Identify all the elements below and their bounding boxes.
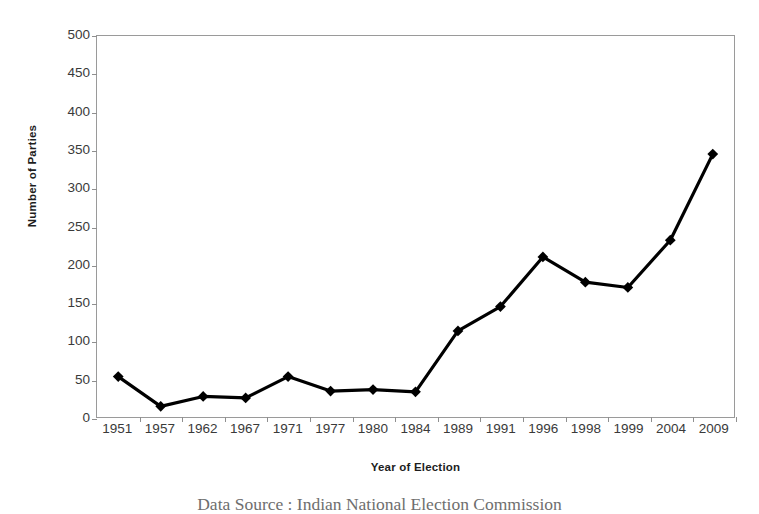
y-tick-label: 250 [46, 220, 90, 234]
y-tick-mark [92, 381, 97, 382]
x-tick-label: 2009 [684, 422, 744, 436]
data-point-marker [283, 371, 294, 382]
chart-figure: Number of Parties 0501001502002503003504… [0, 0, 759, 514]
y-tick-mark [92, 36, 97, 37]
y-tick-label: 500 [46, 28, 90, 42]
y-tick-label: 400 [46, 105, 90, 119]
data-point-marker [240, 393, 251, 404]
y-axis-tick-labels: 050100150200250300350400450500 [40, 0, 90, 514]
series-line [118, 154, 713, 406]
line-series [97, 36, 734, 417]
figure-caption-clip: Data Source : Indian National Election C… [0, 497, 759, 514]
y-axis-title: Number of Parties [26, 76, 38, 276]
plot-area [96, 35, 735, 418]
y-tick-label: 50 [46, 373, 90, 387]
y-tick-label: 300 [46, 181, 90, 195]
y-tick-label: 350 [46, 143, 90, 157]
y-tick-mark [92, 113, 97, 114]
data-point-marker [198, 391, 209, 402]
y-tick-label: 150 [46, 296, 90, 310]
y-tick-mark [92, 304, 97, 305]
y-tick-mark [92, 151, 97, 152]
data-point-marker [325, 386, 336, 397]
y-tick-label: 100 [46, 334, 90, 348]
x-axis-tick-labels: 1951195719621967197119771980198419891991… [96, 422, 735, 444]
data-point-marker [368, 384, 379, 395]
figure-caption: Data Source : Indian National Election C… [0, 497, 759, 514]
y-tick-label: 450 [46, 66, 90, 80]
y-tick-label: 0 [46, 411, 90, 425]
y-tick-mark [92, 189, 97, 190]
y-tick-mark [92, 342, 97, 343]
y-tick-mark [92, 228, 97, 229]
data-point-marker [707, 149, 718, 160]
y-tick-mark [92, 74, 97, 75]
y-tick-mark [92, 419, 97, 420]
y-tick-label: 200 [46, 258, 90, 272]
y-tick-mark [92, 266, 97, 267]
x-axis-title: Year of Election [96, 461, 735, 473]
